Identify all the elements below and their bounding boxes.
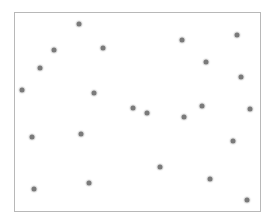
data-point — [30, 135, 35, 140]
data-point — [245, 198, 250, 203]
data-point — [145, 111, 150, 116]
data-point — [200, 104, 205, 109]
data-point — [180, 38, 185, 43]
plot-frame — [14, 12, 261, 212]
data-point — [239, 75, 244, 80]
data-point — [204, 60, 209, 65]
data-point — [231, 139, 236, 144]
data-point — [208, 177, 213, 182]
data-point — [77, 22, 82, 27]
data-point — [79, 132, 84, 137]
data-point — [131, 106, 136, 111]
data-point — [52, 48, 57, 53]
data-point — [101, 46, 106, 51]
data-point — [87, 181, 92, 186]
data-point — [32, 187, 37, 192]
data-point — [20, 88, 25, 93]
data-point — [248, 107, 253, 112]
data-point — [235, 33, 240, 38]
data-point — [158, 165, 163, 170]
data-point — [38, 66, 43, 71]
data-point — [182, 115, 187, 120]
data-point — [92, 91, 97, 96]
